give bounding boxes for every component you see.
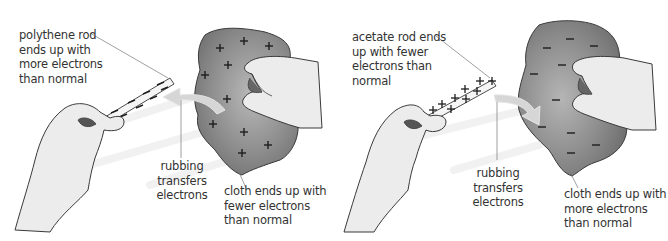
polythene-rod-label: polythene rod ends up with more electron… (19, 28, 103, 86)
left-hand (15, 104, 124, 232)
panel-polythene: polythene rod ends up with more electron… (0, 0, 334, 241)
rubbing-label: rubbing transfers electrons (470, 166, 526, 210)
cloth-label: cloth ends up with more electrons than n… (564, 187, 666, 231)
panel-acetate: acetate rod ends up with fewer electrons… (334, 0, 668, 241)
rubbing-label: rubbing transfers electrons (154, 159, 210, 203)
cloth-label: cloth ends up with fewer electrons than … (224, 184, 326, 228)
acetate-rod-label: acetate rod ends up with fewer electrons… (352, 30, 446, 88)
left-hand (344, 105, 446, 232)
